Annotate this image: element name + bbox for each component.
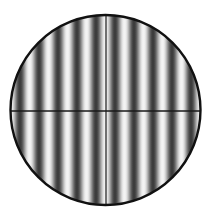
- field-of-view: [0, 0, 214, 219]
- interference-fringes: [0, 0, 214, 219]
- fringe-figure: [0, 0, 214, 219]
